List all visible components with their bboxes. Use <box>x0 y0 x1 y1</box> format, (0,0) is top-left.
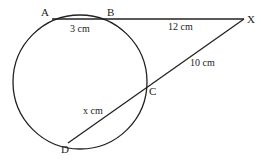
point-label-a: A <box>41 6 49 18</box>
secant-line-xd <box>68 19 244 143</box>
length-label-xc: 10 cm <box>190 57 215 68</box>
length-label-ab: 3 cm <box>70 23 90 34</box>
point-label-c: C <box>149 85 156 97</box>
point-label-d: D <box>61 143 69 155</box>
length-label-bx: 12 cm <box>168 21 193 32</box>
point-label-b: B <box>107 6 114 18</box>
secant-diagram: A B X C D 3 cm 12 cm 10 cm x cm <box>0 0 261 160</box>
circle <box>13 15 147 149</box>
point-label-x: X <box>247 13 255 25</box>
diagram-canvas: A B X C D 3 cm 12 cm 10 cm x cm <box>0 0 261 160</box>
length-label-cd: x cm <box>83 105 103 116</box>
